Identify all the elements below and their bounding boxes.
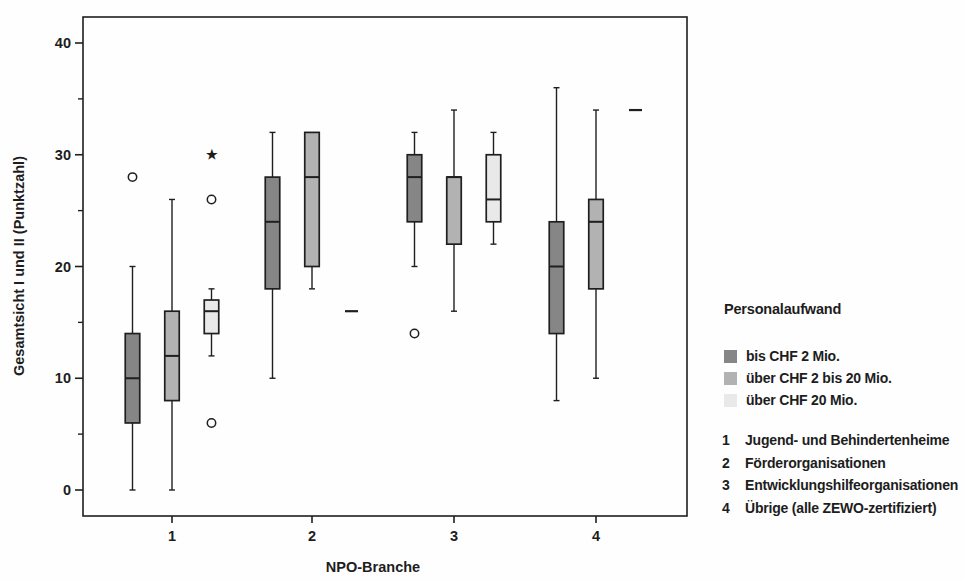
legend-swatch-light [724,394,737,407]
extreme-outlier-star: ★ [206,147,218,162]
y-tick-label: 40 [55,35,71,51]
category-number: 1 [722,432,737,448]
box-cat3-series1 [407,132,422,337]
box-cat4-series1 [549,88,564,401]
legend-title: Personalaufwand [724,301,841,317]
box-cat3-series3 [486,132,501,244]
box-cat2-series2 [305,132,320,288]
outlier-circle [410,329,418,337]
figure: 0102030401234NPO-BrancheGesamtsicht I un… [0,0,965,581]
legend-items: bis CHF 2 Mio. über CHF 2 bis 20 Mio. üb… [724,345,892,411]
box-cat3-series2 [447,110,462,311]
category-key: 1 Jugend- und Behindertenheime 2 Fördero… [722,429,958,519]
legend-item-medium: über CHF 2 bis 20 Mio. [724,367,892,389]
box-cat4-series2 [589,110,604,378]
outlier-circle [128,173,136,181]
legend-item-light: über CHF 20 Mio. [724,389,892,411]
category-number: 2 [722,455,737,471]
y-tick-label: 20 [55,259,71,275]
box-cat1-series1 [125,173,140,490]
legend-label-light: über CHF 20 Mio. [746,392,857,408]
category-number: 4 [722,500,737,516]
category-key-item-2: 2 Förderorganisationen [722,452,958,475]
legend-label-dark: bis CHF 2 Mio. [746,348,840,364]
outlier-circle [207,195,215,203]
category-key-item-4: 4 Übrige (alle ZEWO-zertifiziert) [722,497,958,520]
category-label: Förderorganisationen [745,455,886,471]
category-key-item-1: 1 Jugend- und Behindertenheime [722,429,958,452]
x-tick-label: 4 [592,528,600,544]
y-tick-label: 10 [55,370,71,386]
legend-label-medium: über CHF 2 bis 20 Mio. [746,370,892,386]
y-tick-label: 30 [55,147,71,163]
box-cat1-series3: ★ [204,147,219,427]
box-cat2-series1 [265,132,280,378]
y-tick-label: 0 [63,482,71,498]
legend-item-dark: bis CHF 2 Mio. [724,345,892,367]
x-tick-label: 3 [450,528,458,544]
x-tick-label: 1 [168,528,176,544]
y-axis-title: Gesamtsicht I und II (Punktzahl) [11,156,27,376]
x-axis-title: NPO-Branche [326,559,420,575]
category-key-item-3: 3 Entwicklungshilfeorganisationen [722,474,958,497]
x-tick-label: 2 [308,528,316,544]
category-label: Übrige (alle ZEWO-zertifiziert) [745,500,936,516]
category-label: Entwicklungshilfeorganisationen [745,477,958,493]
legend-swatch-dark [724,350,737,363]
category-label: Jugend- und Behindertenheime [745,432,949,448]
category-number: 3 [722,477,737,493]
outlier-circle [207,419,215,427]
legend-swatch-medium [724,372,737,385]
box-cat1-series2 [165,199,180,490]
